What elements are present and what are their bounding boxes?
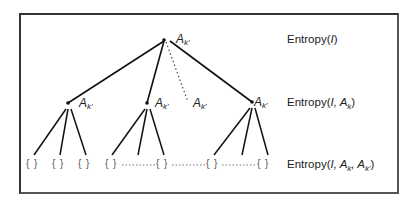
node-label-child-3: Ak' <box>254 95 268 110</box>
node-label-child-1: Ak' <box>79 96 93 111</box>
level-label-1: Entropy(I, Ak) <box>287 96 355 111</box>
node-label-child-2: Ak' <box>155 96 169 111</box>
level-label-0: Entropy(I) <box>287 33 338 45</box>
leaf-set: { } <box>78 158 90 169</box>
leaf-set: { } <box>105 158 117 169</box>
leaf-set: { } <box>257 158 269 169</box>
leaf-set: { } <box>206 158 218 169</box>
leaf-set: { } <box>52 158 64 169</box>
level-label-2: Entropy(I, Ak, Ak') <box>287 158 374 173</box>
node-label-root: Ak' <box>176 32 190 47</box>
leaf-set: { } <box>156 158 168 169</box>
node-label-child-dotted: Ak' <box>193 96 207 111</box>
leaf-set: { } <box>26 158 38 169</box>
